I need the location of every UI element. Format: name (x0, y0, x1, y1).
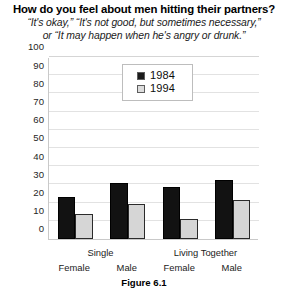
legend-swatch-1984-icon (137, 72, 145, 80)
x-axis-group-label: Single (87, 248, 113, 257)
x-axis-sub-label: Male (222, 263, 242, 272)
bar-1984-3 (215, 180, 233, 239)
y-axis-tick-label: 50 (33, 134, 44, 144)
y-axis-tick-label: 60 (33, 115, 44, 125)
y-axis-tick-label: 0 (39, 225, 44, 235)
bar-chart: 0102030405060708090100 1984 1994 FemaleM… (0, 0, 288, 298)
x-axis-sub-label: Male (117, 263, 137, 272)
legend-label-1994: 1994 (150, 83, 175, 94)
y-axis-tick-label: 70 (33, 97, 44, 107)
bar-1984-1 (110, 183, 128, 239)
bar-1994-2 (180, 219, 198, 239)
bar-1994-1 (128, 204, 146, 239)
bar-1994-0 (75, 214, 93, 239)
y-axis-tick-label: 80 (33, 79, 44, 89)
chart-legend: 1984 1994 (122, 64, 193, 101)
legend-label-1984: 1984 (150, 70, 175, 81)
y-axis-tick-label: 100 (28, 43, 44, 53)
x-axis-sub-label: Female (164, 263, 195, 272)
bar-1984-0 (58, 197, 76, 239)
y-axis-tick-label: 40 (33, 152, 44, 162)
x-axis-sub-label: Female (59, 263, 90, 272)
legend-swatch-1994-icon (137, 85, 145, 93)
y-axis-tick-label: 20 (33, 188, 44, 198)
bar-1994-3 (233, 200, 251, 239)
bar-1984-2 (163, 187, 181, 239)
legend-item-1984: 1984 (123, 69, 192, 82)
y-axis-tick-label: 90 (33, 61, 44, 71)
y-axis-tick-label: 30 (33, 170, 44, 180)
legend-item-1994: 1994 (123, 82, 192, 95)
x-axis-group-label: Living Together (174, 248, 237, 257)
y-axis-tick-label: 10 (33, 206, 44, 216)
figure-caption: Figure 6.1 (0, 278, 288, 288)
